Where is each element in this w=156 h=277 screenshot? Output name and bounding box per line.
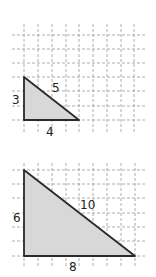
similar-triangles-diagram: 3 5 4 6 10 8	[0, 0, 156, 277]
small-leg-vertical-label: 3	[12, 93, 20, 107]
large-leg-vertical-label: 6	[13, 211, 21, 225]
small-leg-horizontal-label: 4	[46, 125, 54, 139]
small-hypotenuse-label: 5	[52, 81, 60, 95]
large-hypotenuse-label: 10	[80, 198, 95, 212]
large-leg-horizontal-label: 8	[69, 260, 77, 274]
